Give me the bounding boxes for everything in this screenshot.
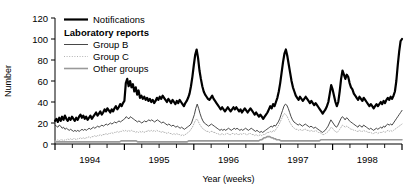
- y-tick-label: 20: [37, 118, 48, 129]
- chart-figure: 02040608010012019941995199619971998Year …: [0, 0, 409, 186]
- legend-label-group-c: Group C: [93, 51, 129, 62]
- x-tick-label: 1997: [287, 154, 308, 165]
- y-tick-label: 40: [37, 97, 48, 108]
- chart-svg: 02040608010012019941995199619971998Year …: [0, 0, 409, 186]
- series-line-group-c: [55, 114, 402, 141]
- series-line-other-groups: [55, 137, 402, 142]
- legend-label-other-groups: Other groups: [93, 63, 149, 74]
- legend-group-heading: Laboratory reports: [64, 27, 149, 38]
- x-tick-label: 1998: [357, 154, 378, 165]
- y-axis-ticks: 020406080100120: [32, 13, 55, 150]
- y-tick-label: 120: [32, 13, 48, 24]
- y-tick-label: 100: [32, 34, 48, 45]
- x-axis-ticks: 19941995199619971998: [55, 144, 402, 165]
- chart-legend: NotificationsLaboratory reportsGroup BGr…: [64, 14, 149, 74]
- y-tick-label: 0: [43, 139, 48, 150]
- y-axis-title: Number: [3, 65, 13, 97]
- legend-label-group-b: Group B: [93, 39, 128, 50]
- y-tick-label: 60: [37, 76, 48, 87]
- x-tick-label: 1996: [218, 154, 239, 165]
- x-axis-title: Year (weeks): [202, 174, 254, 184]
- y-tick-label: 80: [37, 55, 48, 66]
- x-tick-label: 1995: [149, 154, 170, 165]
- legend-label-notifications: Notifications: [93, 14, 145, 25]
- x-tick-label: 1994: [79, 154, 100, 165]
